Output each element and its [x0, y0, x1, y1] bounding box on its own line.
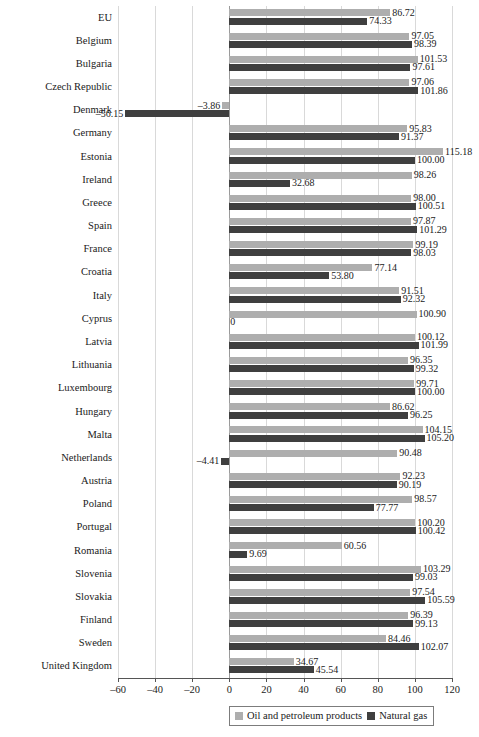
bar-oil: [229, 566, 421, 573]
category-label: Sweden: [0, 637, 112, 649]
category-label: Poland: [0, 498, 112, 510]
bar-natural-gas: [229, 666, 314, 673]
x-tick-label--40: –40: [135, 683, 175, 696]
bar-value-natural-gas: 100.00: [417, 155, 445, 165]
bar-value-natural-gas: 101.99: [421, 340, 449, 350]
x-tick-label-80: 80: [358, 683, 398, 696]
category-label: Luxembourg: [0, 382, 112, 394]
x-tick-label--20: –20: [172, 683, 212, 696]
chart-row: Croatia77.1453.80: [0, 261, 479, 284]
chart-row: Bulgaria101.5397.61: [0, 52, 479, 75]
x-tick-label-60: 60: [321, 683, 361, 696]
x-tick-label--60: –60: [98, 683, 138, 696]
category-label: Bulgaria: [0, 58, 112, 70]
bar-value-natural-gas: 101.86: [420, 86, 448, 96]
x-tick-mark-100: [415, 678, 416, 682]
bar-oil: [229, 380, 414, 387]
chart-row: Greece98.00100.51: [0, 191, 479, 214]
bar-oil: [229, 218, 411, 225]
chart-row: Portugal100.20100.42: [0, 516, 479, 539]
bar-value-natural-gas: 97.61: [412, 62, 435, 72]
bar-natural-gas: [229, 203, 416, 210]
bar-natural-gas: [229, 597, 425, 604]
x-tick-mark--20: [192, 678, 193, 682]
bar-oil: [229, 519, 415, 526]
bar-natural-gas: [229, 342, 418, 349]
chart-row: Sweden84.46102.07: [0, 632, 479, 655]
chart-row: Germany95.8391.37: [0, 122, 479, 145]
bar-oil: [229, 311, 416, 318]
bar-value-oil: 77.14: [374, 263, 397, 273]
bar-value-oil: 100.90: [419, 309, 447, 319]
bar-natural-gas: [125, 110, 229, 117]
bar-value-oil: 84.46: [388, 634, 411, 644]
bar-oil: [229, 635, 386, 642]
category-label: Lithuania: [0, 359, 112, 371]
category-label: Estonia: [0, 151, 112, 163]
category-label: Slovakia: [0, 591, 112, 603]
chart-row: Estonia115.18100.00: [0, 145, 479, 168]
bar-value-oil: 34.67: [296, 657, 319, 667]
bar-natural-gas: [229, 574, 413, 581]
bar-value-natural-gas: 105.59: [427, 595, 455, 605]
bar-value-natural-gas: 100.42: [418, 526, 446, 536]
bar-oil: [229, 241, 413, 248]
bar-value-oil: 86.72: [392, 8, 415, 18]
bar-natural-gas: [229, 435, 424, 442]
bar-value-natural-gas: 98.39: [414, 39, 437, 49]
x-tick-label-20: 20: [246, 683, 286, 696]
category-label: Italy: [0, 290, 112, 302]
bar-value-natural-gas: 74.33: [369, 16, 392, 26]
bar-natural-gas: [229, 412, 408, 419]
bar-oil: [229, 195, 411, 202]
chart-row: United Kingdom34.6745.54: [0, 655, 479, 678]
bar-value-natural-gas: 100.00: [417, 387, 445, 397]
bar-natural-gas: [229, 41, 412, 48]
bar-value-natural-gas: 105.20: [427, 433, 455, 443]
bar-natural-gas: [229, 388, 415, 395]
bar-oil: [229, 612, 408, 619]
category-label: United Kingdom: [0, 660, 112, 672]
bar-oil: [229, 473, 400, 480]
x-tick-label-120: 120: [432, 683, 472, 696]
bar-oil: [229, 357, 408, 364]
bar-oil: [229, 589, 410, 596]
bar-oil: [229, 148, 443, 155]
category-label: Slovenia: [0, 568, 112, 580]
x-tick-label-100: 100: [395, 683, 435, 696]
x-tick-mark-0: [229, 678, 230, 682]
bar-value-natural-gas: –56.15: [0, 109, 123, 119]
bar-value-natural-gas: 53.80: [331, 271, 354, 281]
bar-value-natural-gas: 91.37: [401, 132, 424, 142]
bar-natural-gas: [229, 296, 400, 303]
bar-natural-gas: [229, 643, 418, 650]
bar-value-oil: 90.48: [399, 448, 422, 458]
x-tick-label-0: 0: [209, 683, 249, 696]
bar-natural-gas: [229, 551, 247, 558]
x-axis-line: [118, 678, 452, 679]
bar-natural-gas: [229, 226, 417, 233]
category-label: Ireland: [0, 174, 112, 186]
x-tick-mark-20: [266, 678, 267, 682]
bar-value-oil: 98.26: [414, 170, 437, 180]
bar-oil: [229, 9, 390, 16]
chart-row: Lithuania96.3599.32: [0, 354, 479, 377]
bar-value-natural-gas: 92.32: [403, 294, 426, 304]
category-label: Greece: [0, 197, 112, 209]
legend-entry-gas: Natural gas: [367, 709, 427, 722]
bar-value-natural-gas: 101.29: [419, 225, 447, 235]
bar-value-natural-gas: 0: [230, 317, 235, 327]
bar-value-oil: 115.18: [445, 147, 472, 157]
category-label: France: [0, 243, 112, 255]
chart-row: Ireland98.2632.68: [0, 168, 479, 191]
chart-row: Hungary86.6296.25: [0, 400, 479, 423]
legend-label-gas: Natural gas: [379, 709, 427, 722]
bar-oil: [229, 658, 293, 665]
bar-oil: [229, 403, 390, 410]
x-tick-label-40: 40: [284, 683, 324, 696]
chart-row: Cyprus100.900: [0, 307, 479, 330]
bar-value-natural-gas: 77.77: [376, 503, 399, 513]
bar-natural-gas: [229, 504, 373, 511]
bar-natural-gas: [229, 180, 290, 187]
x-tick-mark--60: [118, 678, 119, 682]
